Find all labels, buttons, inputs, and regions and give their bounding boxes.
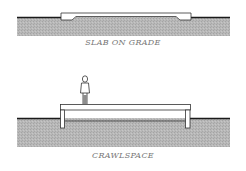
- slab-on-grade-panel: [17, 13, 230, 36]
- caption-slab-on-grade: SLAB ON GRADE: [0, 38, 246, 47]
- ground-mass: [17, 118, 230, 147]
- person-body: [81, 83, 90, 93]
- crawlspace-panel: [17, 76, 230, 147]
- person-head: [82, 76, 87, 82]
- ground-mass: [17, 17, 230, 36]
- foundation-wall-left: [61, 110, 65, 128]
- floor-deck: [61, 105, 191, 111]
- foundation-wall-right: [186, 110, 191, 128]
- foundation-diagram: [0, 0, 246, 171]
- crawlspace-void: [64, 110, 186, 118]
- caption-crawlspace: CRAWLSPACE: [0, 151, 246, 160]
- person-figure: [81, 76, 90, 104]
